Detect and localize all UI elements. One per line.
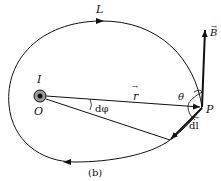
loop-direction-arrow-top bbox=[96, 18, 104, 24]
current-label: I bbox=[37, 74, 41, 85]
point-label: P bbox=[206, 104, 213, 115]
loop-direction-arrow-bottom bbox=[63, 159, 71, 165]
dphi-label: dφ bbox=[95, 104, 108, 114]
wire-core bbox=[38, 94, 43, 99]
loop-label: L bbox=[96, 4, 103, 15]
radius-vector-arrow-glyph: → bbox=[132, 84, 138, 91]
field-vector-arrow-glyph: → bbox=[211, 24, 217, 31]
diagram-drawing bbox=[0, 0, 221, 181]
dl-label: dl bbox=[189, 121, 199, 131]
radius-vector bbox=[46, 96, 200, 107]
theta-label: θ bbox=[178, 92, 184, 102]
radius-label: r bbox=[133, 91, 138, 102]
dl-vector-arrow-glyph: → bbox=[193, 115, 199, 122]
origin-label: O bbox=[34, 106, 43, 117]
b-field-vector bbox=[202, 30, 205, 107]
dphi-arc bbox=[90, 99, 92, 110]
figure-caption: (b) bbox=[88, 168, 102, 178]
ampere-loop-diagram: L I O P B → r → θ dφ dl → (b) bbox=[0, 0, 221, 181]
